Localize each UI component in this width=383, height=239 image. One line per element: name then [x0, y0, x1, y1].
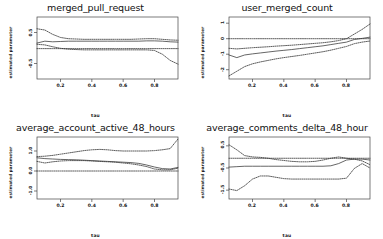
y-tick-label: 1.0 [28, 143, 33, 157]
x-axis-label: tau [192, 233, 383, 238]
x-tick-label: 0.6 [116, 83, 130, 88]
panel-title: merged_pull_request [0, 2, 191, 13]
quantile-regression-figure: merged_pull_request estimated parameter … [0, 0, 383, 239]
x-tick-label: 0.4 [276, 203, 290, 208]
x-tick-label: 0.4 [276, 83, 290, 88]
y-tick-label: 0.5 [28, 25, 33, 39]
y-tick-label: -1.0 [28, 183, 33, 197]
x-tick-label: 0.8 [148, 83, 162, 88]
x-tick-label: 0.8 [339, 203, 353, 208]
y-tick-label: -2 [219, 62, 224, 76]
x-tick-label: 0.2 [245, 83, 259, 88]
y-tick-label: -1.5 [219, 182, 224, 196]
x-axis-label: tau [0, 113, 191, 118]
x-tick-label: 0.2 [245, 203, 259, 208]
x-axis-label: tau [192, 113, 383, 118]
y-axis-label: estimated parameter [199, 141, 204, 203]
x-tick-label: 0.8 [148, 203, 162, 208]
x-tick-label: 0.6 [116, 203, 130, 208]
y-tick-label: 0 [219, 31, 224, 45]
y-tick-label: 0.0 [28, 163, 33, 177]
y-axis-label: estimated parameter [199, 22, 204, 84]
x-tick-label: 0.6 [308, 203, 322, 208]
y-tick-label: 1 [219, 16, 224, 30]
panel-title: user_merged_count [192, 2, 383, 13]
y-tick-label: -0.5 [219, 160, 224, 174]
chart-panel-user-merged-count: user_merged_count estimated parameter ta… [192, 0, 383, 119]
plot-area [0, 120, 191, 239]
chart-panel-average-account-active-48-hours: average_account_active_48_hours estimate… [0, 120, 191, 239]
x-tick-label: 0.2 [54, 203, 68, 208]
chart-panel-merged-pull-request: merged_pull_request estimated parameter … [0, 0, 191, 119]
y-axis-label: estimated parameter [8, 22, 13, 84]
panel-title: average_comments_delta_48_hour [192, 122, 383, 133]
x-tick-label: 0.4 [85, 83, 99, 88]
x-tick-label: 0.8 [339, 83, 353, 88]
panel-title: average_account_active_48_hours [0, 122, 191, 133]
chart-panel-average-comments-delta-48-hour: average_comments_delta_48_hour estimated… [192, 120, 383, 239]
y-tick-label: -0.5 [28, 56, 33, 70]
y-tick-label: -1 [219, 47, 224, 61]
x-tick-label: 0.2 [54, 83, 68, 88]
x-tick-label: 0.6 [308, 83, 322, 88]
y-tick-label: 0.5 [219, 138, 224, 152]
x-tick-label: 0.4 [85, 203, 99, 208]
x-axis-label: tau [0, 233, 191, 238]
y-axis-label: estimated parameter [8, 141, 13, 203]
